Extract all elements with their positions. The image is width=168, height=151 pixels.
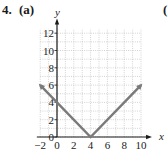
x-tick-label: 10 [136,139,148,151]
x-tick-label: 8 [121,139,127,151]
axes [37,18,152,139]
x-tick-label: 0 [54,139,60,151]
x-tick-label: −2 [34,139,46,151]
x-tick-label: 6 [105,139,111,151]
y-tick-label: 6 [49,79,55,91]
y-tick-label: 8 [49,62,55,74]
x-axis-label: x [158,130,164,142]
y-axis-label: y [54,6,60,18]
x-tick-label: 2 [71,139,77,151]
y-tick-label: 12 [43,27,54,39]
grid [40,29,141,137]
x-axis-arrow-icon [146,135,152,139]
y-tick-label: 10 [43,45,55,57]
y-axis-arrow-icon [55,18,59,24]
chart: −20246810024681012 x y [0,0,168,151]
y-tick-label: 0 [49,131,55,143]
x-tick-label: 4 [88,139,94,151]
y-tick-label: 2 [49,114,55,126]
